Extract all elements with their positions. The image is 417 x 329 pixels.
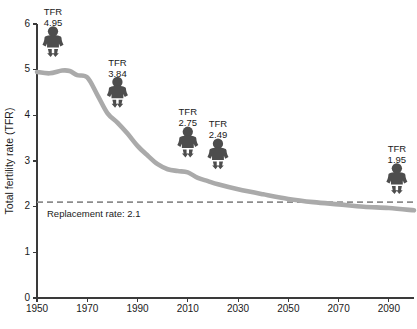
x-tick-label: 2010 <box>177 303 200 314</box>
tfr-annotation-value: 3.84 <box>108 68 127 79</box>
tfr-annotation-value: 4.95 <box>44 17 63 28</box>
annotation-group: TFR4.95TFR3.84TFR2.75TFR2.49TFR1.95 <box>42 6 407 194</box>
y-tick-label: 6 <box>24 18 30 29</box>
replacement-rate-label: Replacement rate: 2.1 <box>47 208 140 219</box>
x-tick-label: 1990 <box>126 303 149 314</box>
baby-icon <box>386 163 407 194</box>
x-tick-label: 2050 <box>277 303 300 314</box>
tfr-annotation-prefix: TFR <box>388 143 407 154</box>
tfr-annotation: TFR3.84 <box>107 57 128 108</box>
fertility-rate-chart: 0123456 Total fertility rate (TFR) 19501… <box>0 0 417 329</box>
tfr-annotation-value: 2.49 <box>209 129 228 140</box>
tfr-annotation-value: 2.75 <box>179 117 198 128</box>
tfr-annotation: TFR1.95 <box>386 143 407 194</box>
chart-plot-area: 0123456 Total fertility rate (TFR) 19501… <box>0 0 417 329</box>
tfr-annotation-value: 1.95 <box>388 154 407 165</box>
y-tick-group: 0123456 <box>24 18 37 303</box>
x-axis-group: 19501970199020102030205020702090 <box>26 298 414 314</box>
y-tick-label: 2 <box>24 200 30 211</box>
y-axis-group: 0123456 Total fertility rate (TFR) <box>3 18 37 303</box>
tfr-annotation-prefix: TFR <box>209 118 228 129</box>
y-tick-label: 0 <box>24 292 30 303</box>
baby-icon <box>107 77 128 108</box>
x-tick-label: 2090 <box>378 303 401 314</box>
baby-icon <box>177 127 198 158</box>
y-axis-title: Total fertility rate (TFR) <box>3 108 15 215</box>
tfr-annotation-prefix: TFR <box>179 106 198 117</box>
baby-icon <box>207 138 228 169</box>
x-tick-label: 1950 <box>26 303 49 314</box>
y-tick-label: 1 <box>24 246 30 257</box>
tfr-annotation-prefix: TFR <box>108 57 127 68</box>
y-tick-label: 5 <box>24 63 30 74</box>
x-tick-label: 2030 <box>227 303 250 314</box>
x-tick-label: 1970 <box>76 303 99 314</box>
baby-icon <box>42 26 63 57</box>
y-tick-label: 3 <box>24 155 30 166</box>
tfr-annotation-prefix: TFR <box>44 6 63 17</box>
tfr-annotation: TFR2.75 <box>177 106 198 157</box>
tfr-series-line <box>37 70 414 210</box>
y-tick-label: 4 <box>24 109 30 120</box>
x-tick-group: 19501970199020102030205020702090 <box>26 298 401 314</box>
tfr-annotation: TFR4.95 <box>42 6 63 57</box>
tfr-annotation: TFR2.49 <box>207 118 228 169</box>
x-tick-label: 2070 <box>327 303 350 314</box>
